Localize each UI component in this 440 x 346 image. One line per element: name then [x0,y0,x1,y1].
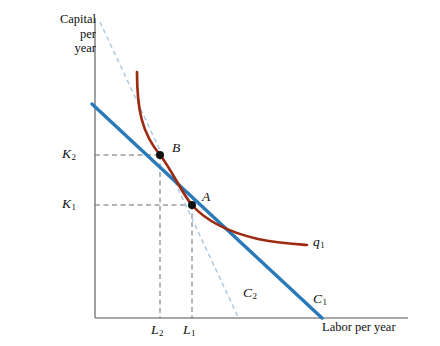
isocost-line-c1 [92,104,322,318]
curve-label-c2-sub: 2 [252,291,257,301]
y-axis-title-line-2: per [38,27,96,42]
x-tick-l2-sub: 2 [159,328,164,338]
x-axis-title: Labor per year [322,320,396,335]
y-axis-title: Capital per year [38,12,96,56]
y-tick-label-k1: K1 [62,196,76,212]
curve-label-q1: q1 [313,234,325,250]
curve-label-c2: C2 [243,285,257,301]
x-tick-label-l2: L2 [151,322,164,338]
y-tick-k1-sub: 1 [71,202,76,212]
y-tick-k2-base: K [62,146,71,161]
point-label-a: A [202,189,210,205]
isoquant-curve-q1 [137,72,307,245]
y-axis-title-line-3: year [38,41,96,56]
curve-label-q1-base: q [313,234,320,249]
figure-canvas: Capital per year Labor per year K2 K1 L2… [0,0,440,346]
y-tick-k1-base: K [62,196,71,211]
curve-label-q1-sub: 1 [320,240,325,250]
point-label-b: B [172,140,180,156]
y-tick-label-k2: K2 [62,146,76,162]
x-tick-label-l1: L1 [183,322,196,338]
y-tick-k2-sub: 2 [71,152,76,162]
x-tick-l2-base: L [151,322,159,337]
curve-label-c2-base: C [243,285,252,300]
data-point-a [188,201,196,209]
data-point-b [156,151,164,159]
curve-label-c1-sub: 1 [322,297,327,307]
y-axis-title-line-1: Capital [38,12,96,27]
curve-label-c1-base: C [313,291,322,306]
x-tick-l1-base: L [183,322,191,337]
x-tick-l1-sub: 1 [191,328,196,338]
curve-label-c1: C1 [313,291,327,307]
